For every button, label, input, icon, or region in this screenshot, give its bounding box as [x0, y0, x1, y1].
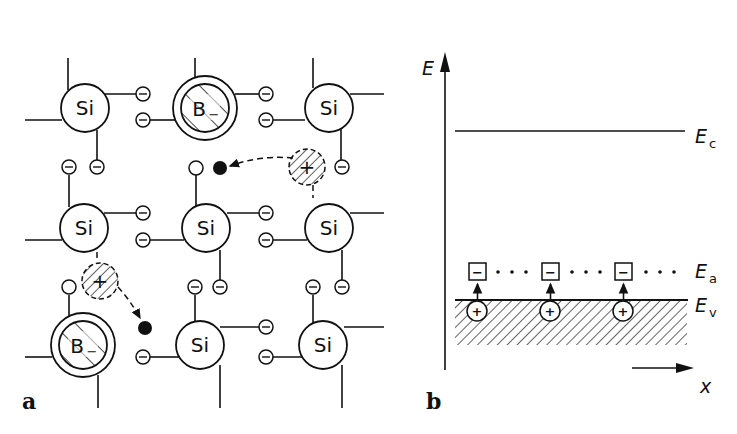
svg-text:−: −	[209, 107, 220, 122]
electron-transfer-arrow	[118, 287, 140, 318]
svg-text:−: −	[545, 265, 556, 280]
label-ea: E a	[695, 260, 717, 286]
si-atom: Si	[305, 84, 353, 132]
svg-text:Si: Si	[75, 216, 93, 240]
electron	[136, 87, 150, 101]
si-atom: Si	[299, 321, 347, 369]
svg-text:Si: Si	[320, 96, 338, 120]
electron	[259, 113, 273, 127]
svg-text:B: B	[70, 334, 84, 358]
si-atom: Si	[61, 84, 109, 132]
svg-text:E: E	[695, 260, 707, 282]
svg-text:c: c	[709, 136, 716, 151]
empty-bond-site	[62, 280, 76, 294]
svg-text:Si: Si	[314, 333, 332, 357]
valence-band-fill	[455, 300, 687, 345]
label-ev: E v	[695, 294, 717, 320]
arrow-right-icon	[676, 363, 694, 373]
electron	[136, 113, 150, 127]
panel-label-a: a	[22, 388, 36, 414]
electron	[213, 280, 227, 294]
electron	[136, 206, 150, 220]
hole: +	[289, 149, 325, 185]
svg-text:E: E	[695, 125, 707, 147]
panel-a-lattice: Si Si Si Si Si Si Si B − B −	[22, 58, 384, 414]
electron	[259, 206, 273, 220]
electron	[259, 320, 273, 334]
svg-text:v: v	[709, 305, 717, 320]
electron	[62, 160, 76, 174]
electron	[188, 280, 202, 294]
label-ec: E c	[695, 125, 716, 151]
svg-text:+: +	[299, 155, 316, 179]
acceptor-ion: −	[469, 263, 486, 280]
valence-hole: +	[467, 301, 487, 321]
si-atom: Si	[305, 204, 353, 252]
electron	[136, 233, 150, 247]
electron	[306, 280, 320, 294]
svg-text:a: a	[709, 271, 717, 286]
electron	[259, 233, 273, 247]
energy-axis-label: E	[422, 57, 434, 79]
svg-text:Si: Si	[191, 333, 209, 357]
acceptor-level: − − −	[469, 263, 676, 280]
acceptor-ion: −	[615, 263, 632, 280]
svg-text:Si: Si	[76, 96, 94, 120]
captured-electron	[213, 161, 227, 175]
si-atom: Si	[60, 204, 108, 252]
arrow-up-icon	[440, 52, 450, 72]
boron-atom: B −	[51, 313, 115, 377]
excitation-arrows	[478, 284, 624, 300]
si-atom: Si	[182, 204, 230, 252]
si-atom: Si	[176, 321, 224, 369]
panel-label-b: b	[426, 388, 441, 414]
electron	[335, 160, 349, 174]
svg-text:−: −	[87, 344, 98, 359]
empty-bond-site	[189, 161, 203, 175]
svg-text:B: B	[192, 97, 206, 121]
electron-transfer-arrow	[230, 157, 293, 166]
svg-text:+: +	[618, 304, 629, 319]
svg-text:−: −	[472, 265, 483, 280]
electron	[259, 350, 273, 364]
svg-text:Si: Si	[320, 216, 338, 240]
electron	[335, 280, 349, 294]
dotted-line	[496, 270, 676, 274]
acceptor-ion: −	[542, 263, 559, 280]
svg-text:Si: Si	[197, 216, 215, 240]
panel-b-band-diagram: E E c − − −	[422, 52, 717, 414]
valence-hole: +	[613, 301, 633, 321]
position-axis-label: x	[699, 375, 712, 397]
electron	[259, 87, 273, 101]
valence-hole: +	[540, 301, 560, 321]
svg-text:+: +	[472, 304, 483, 319]
figure: Si Si Si Si Si Si Si B − B −	[0, 0, 737, 434]
captured-electron	[138, 321, 152, 335]
svg-text:−: −	[618, 265, 629, 280]
hole: +	[82, 263, 118, 299]
svg-text:+: +	[545, 304, 556, 319]
svg-text:E: E	[695, 294, 707, 316]
electron	[136, 350, 150, 364]
svg-text:+: +	[92, 269, 109, 293]
boron-atom: B −	[173, 76, 237, 140]
electron	[90, 160, 104, 174]
